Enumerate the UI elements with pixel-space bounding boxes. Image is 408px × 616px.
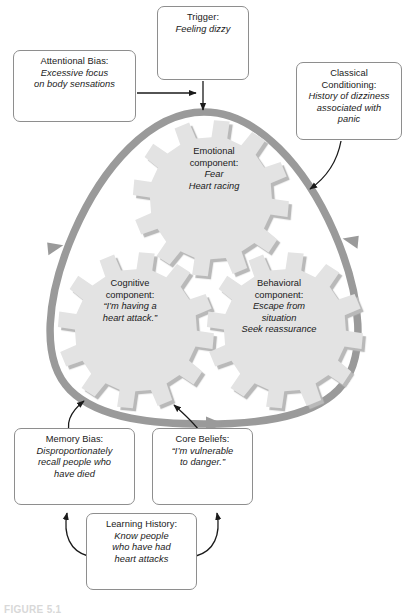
box-classical-conditioning-label-line1: Classical <box>297 68 401 80</box>
box-classical-conditioning-line-1: associated with <box>297 103 401 115</box>
box-learning-history-line-1: who have had <box>87 542 196 554</box>
box-learning-history-line-2: heart attacks <box>87 554 196 566</box>
gear-emotional <box>133 120 289 276</box>
box-learning-history: Learning History: Know people who have h… <box>86 513 197 590</box>
box-trigger: Trigger: Feeling dizzy <box>157 6 249 80</box>
box-learning-history-line-0: Know people <box>87 531 196 543</box>
box-trigger-line-0: Feeling dizzy <box>158 24 248 36</box>
box-classical-conditioning-line-2: panic <box>297 114 401 126</box>
box-trigger-label: Trigger: <box>158 12 248 24</box>
box-core-beliefs-label: Core Beliefs: <box>153 434 252 446</box>
box-memory-bias-line-1: recall people who <box>15 457 134 469</box>
cycle-arrowhead-left <box>43 239 63 259</box>
figure-panic-cycle-diagram: Emotional component: Fear Heart racing C… <box>0 0 408 616</box>
figure-caption: FIGURE 5.1 <box>4 604 61 615</box>
box-attentional-bias-label: Attentional Bias: <box>14 56 135 68</box>
box-memory-bias-label: Memory Bias: <box>15 434 134 446</box>
box-attentional-bias-line-0: Excessive focus <box>14 68 135 80</box>
arrow-learning-to-memory <box>66 513 88 556</box>
cycle-arrowhead-right <box>343 233 363 253</box>
gear-cognitive <box>58 252 214 408</box>
box-core-beliefs-line-0: “I’m vulnerable <box>153 446 252 458</box>
box-core-beliefs-line-1: to danger.” <box>153 457 252 469</box>
box-classical-conditioning-label-line2: Conditioning: <box>297 80 401 92</box>
box-core-beliefs: Core Beliefs: “I’m vulnerable to danger.… <box>152 428 253 505</box>
box-memory-bias: Memory Bias: Disproportionately recall p… <box>14 428 135 505</box>
box-classical-conditioning-line-0: History of dizziness <box>297 91 401 103</box>
box-memory-bias-line-0: Disproportionately <box>15 446 134 458</box>
arrow-classical-to-emotional <box>310 141 341 189</box>
box-attentional-bias: Attentional Bias: Excessive focus on bod… <box>13 50 136 122</box>
box-memory-bias-line-2: have died <box>15 469 134 481</box>
box-classical-conditioning: Classical Conditioning: History of dizzi… <box>296 62 402 140</box>
box-attentional-bias-line-1: on body sensations <box>14 79 135 91</box>
box-learning-history-label: Learning History: <box>87 519 196 531</box>
arrow-learning-to-core <box>196 513 218 556</box>
